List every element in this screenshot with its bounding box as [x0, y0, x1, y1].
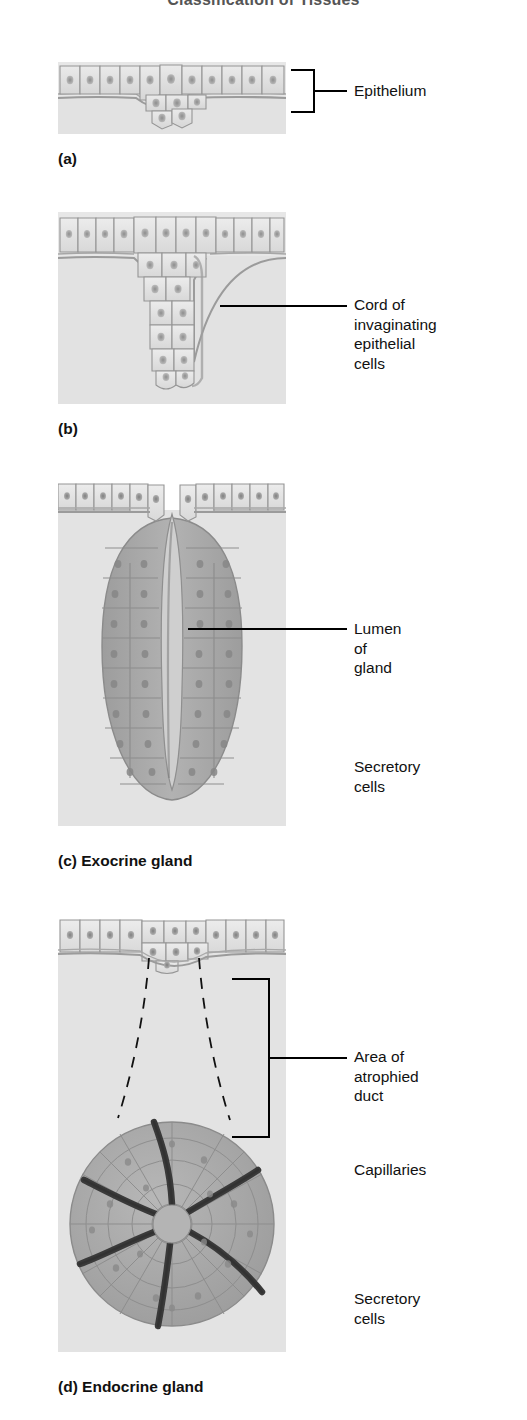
epithelium-bracket — [291, 69, 315, 113]
label-secretory-cells-endocrine: Secretory cells — [354, 1289, 420, 1328]
panel-b-artwork — [58, 212, 286, 404]
panel-a-artwork — [58, 62, 286, 134]
panel-a-caption: (a) — [58, 150, 77, 168]
panel-c-caption: (c) Exocrine gland — [58, 852, 192, 870]
panel-c-artwork — [58, 478, 286, 826]
label-cord-of-invaginating-epithelial-cells: Cord of invaginating epithelial cells — [354, 295, 437, 373]
label-capillaries: Capillaries — [354, 1160, 426, 1180]
figure-page: Classification of Tissues — [0, 0, 527, 1420]
running-head: Classification of Tissues — [0, 0, 527, 9]
atrophied-duct-leader-line — [268, 1057, 347, 1059]
label-area-of-atrophied-duct: Area of atrophied duct — [354, 1047, 419, 1106]
epithelium-leader-line — [313, 90, 347, 92]
cord-leader-line — [220, 305, 347, 307]
label-epithelium: Epithelium — [354, 81, 426, 101]
lumen-leader-line — [188, 628, 347, 630]
label-lumen-of-gland: Lumen of gland — [354, 619, 401, 678]
panel-d-caption: (d) Endocrine gland — [58, 1378, 204, 1396]
panel-b-caption: (b) — [58, 420, 78, 438]
atrophied-duct-bracket — [232, 978, 270, 1138]
label-secretory-cells-exocrine: Secretory cells — [354, 757, 420, 796]
